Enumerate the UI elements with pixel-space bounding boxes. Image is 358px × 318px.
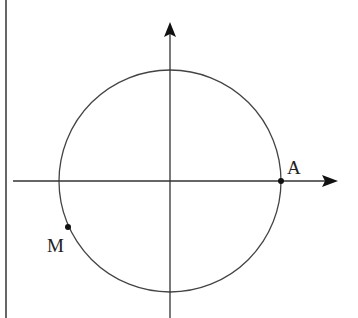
label-a: A	[287, 157, 301, 178]
point-m	[65, 224, 71, 230]
diagram-svg: A M	[0, 0, 358, 318]
unit-circle-diagram: A M	[0, 0, 358, 318]
point-a	[278, 178, 284, 184]
label-m: M	[47, 235, 64, 256]
